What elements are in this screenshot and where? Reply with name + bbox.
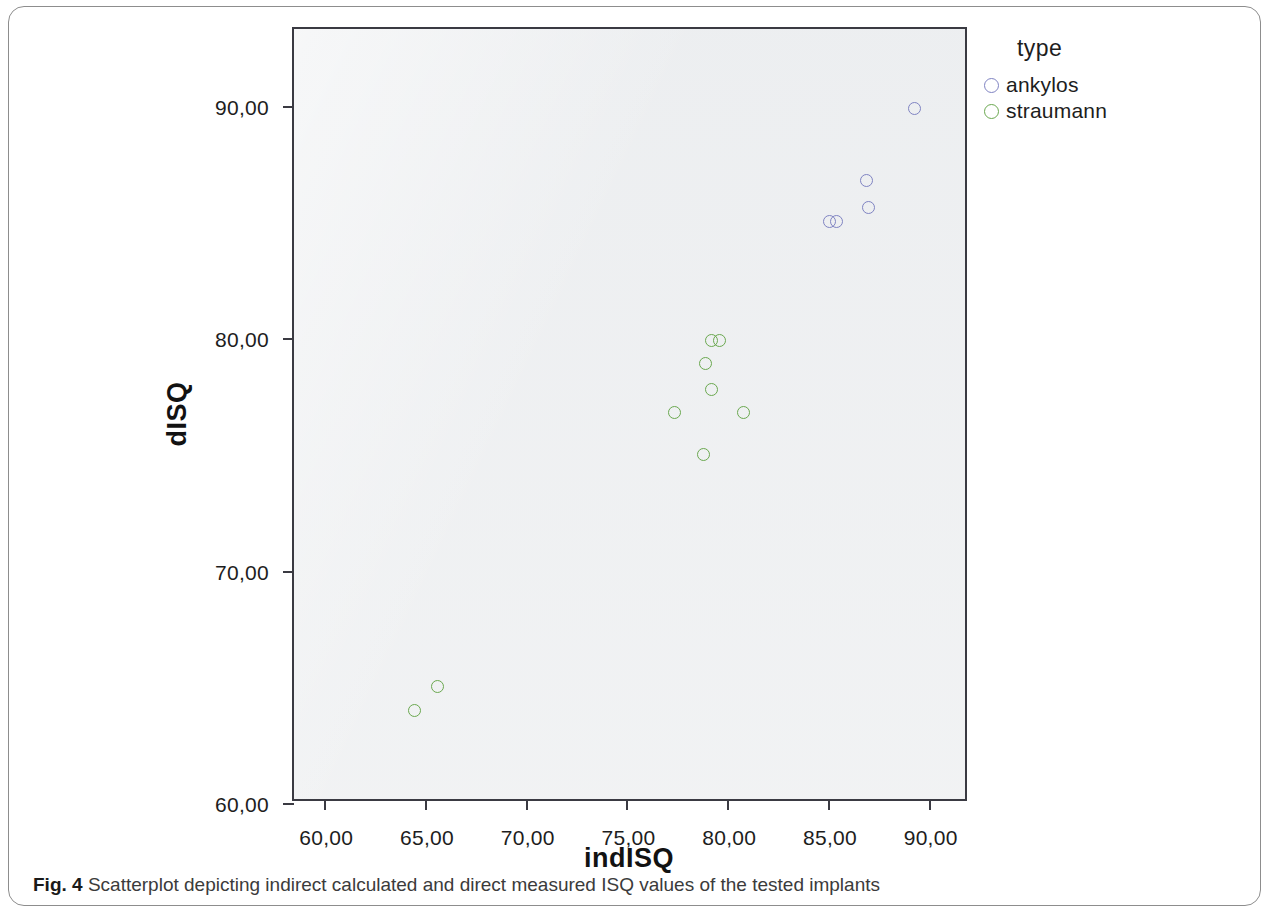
legend-label: ankylos: [1006, 73, 1079, 97]
data-point-ankylos: [862, 201, 875, 214]
figure-number: Fig. 4: [33, 874, 83, 895]
x-tick-label: 70,00: [501, 826, 555, 850]
y-tick-label: 70,00: [215, 561, 269, 585]
data-point-straumann: [408, 704, 421, 717]
legend: type ankylosstraumann: [984, 35, 1234, 124]
y-tick: 90,00: [283, 106, 294, 108]
legend-marker-icon: [984, 104, 999, 119]
y-tick-label: 60,00: [215, 793, 269, 817]
x-tick: 80,00: [727, 799, 729, 810]
legend-entry-straumann: straumann: [984, 98, 1234, 124]
x-tick-label: 90,00: [904, 826, 958, 850]
data-point-straumann: [668, 406, 681, 419]
plot-area: 60,0070,0080,0090,00 60,0065,0070,0075,0…: [292, 27, 967, 801]
x-tick: 65,00: [425, 799, 427, 810]
legend-marker-icon: [984, 78, 999, 93]
x-tick: 85,00: [828, 799, 830, 810]
figure-caption: Fig. 4 Scatterplot depicting indirect ca…: [33, 873, 1233, 898]
x-tick-label: 75,00: [601, 826, 655, 850]
y-axis-title: dISQ: [162, 381, 193, 446]
data-point-straumann: [697, 448, 710, 461]
y-tick: 70,00: [283, 571, 294, 573]
x-tick: 60,00: [324, 799, 326, 810]
data-point-ankylos: [830, 215, 843, 228]
data-point-straumann: [699, 357, 712, 370]
legend-title: type: [1017, 35, 1234, 62]
y-tick: 80,00: [283, 338, 294, 340]
legend-entries: ankylosstraumann: [984, 72, 1234, 124]
scatterplot-chart: dISQ indISQ 60,0070,0080,0090,00 60,0065…: [9, 7, 1262, 869]
data-point-straumann: [737, 406, 750, 419]
x-tick-label: 85,00: [803, 826, 857, 850]
data-point-straumann: [713, 334, 726, 347]
x-tick-label: 80,00: [702, 826, 756, 850]
y-tick-label: 90,00: [215, 96, 269, 120]
figure-card: dISQ indISQ 60,0070,0080,0090,00 60,0065…: [8, 6, 1261, 906]
y-tick-label: 80,00: [215, 328, 269, 352]
x-tick: 75,00: [626, 799, 628, 810]
data-point-ankylos: [908, 102, 921, 115]
caption-text: Scatterplot depicting indirect calculate…: [88, 874, 880, 895]
plot-background-texture: [294, 29, 965, 799]
x-tick-label: 60,00: [299, 826, 353, 850]
legend-label: straumann: [1006, 99, 1107, 123]
x-tick-label: 65,00: [400, 826, 454, 850]
legend-entry-ankylos: ankylos: [984, 72, 1234, 98]
x-tick: 90,00: [929, 799, 931, 810]
data-point-straumann: [431, 680, 444, 693]
y-tick: 60,00: [283, 803, 294, 805]
data-point-straumann: [705, 383, 718, 396]
x-tick: 70,00: [526, 799, 528, 810]
data-point-ankylos: [860, 174, 873, 187]
